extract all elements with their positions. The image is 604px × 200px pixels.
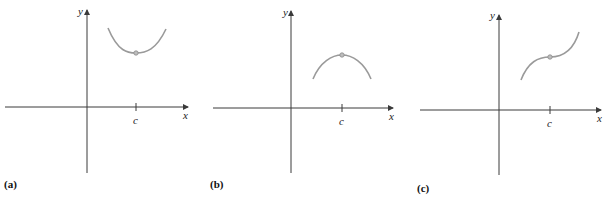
figure-canvas: y x c (a) y x c (b) y x c (c) bbox=[0, 0, 604, 200]
critical-point bbox=[548, 55, 552, 59]
x-axis-label: x bbox=[596, 112, 602, 124]
curve-max bbox=[313, 55, 371, 79]
critical-point bbox=[340, 53, 344, 57]
panel-a: y x c (a) bbox=[4, 5, 188, 191]
panel-label: (b) bbox=[210, 178, 224, 191]
y-axis-label: y bbox=[77, 5, 83, 17]
c-label: c bbox=[133, 114, 138, 126]
panel-label: (c) bbox=[417, 182, 430, 195]
y-axis-label: y bbox=[282, 6, 288, 18]
c-label: c bbox=[547, 117, 552, 129]
x-axis-label: x bbox=[388, 110, 394, 122]
x-axis-label: x bbox=[182, 109, 188, 121]
panel-label: (a) bbox=[4, 178, 17, 191]
panel-c: y x c (c) bbox=[417, 9, 602, 195]
curve-min bbox=[108, 28, 166, 53]
c-label: c bbox=[339, 115, 344, 127]
panel-b: y x c (b) bbox=[210, 6, 394, 191]
critical-point bbox=[134, 51, 138, 55]
y-axis-label: y bbox=[489, 9, 495, 21]
